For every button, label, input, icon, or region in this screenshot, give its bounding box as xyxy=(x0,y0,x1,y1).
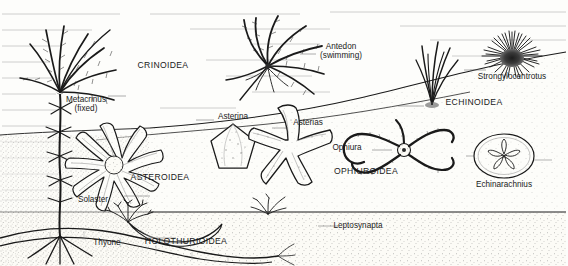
genus-label-antedon: Antedon (swimming) xyxy=(320,42,362,60)
class-label-echinoidea: ECHINOIDEA xyxy=(446,98,503,108)
antedon-org xyxy=(226,16,324,100)
class-label-ophiuroidea: OPHIUROIDEA xyxy=(334,167,398,177)
echinoderm-habitat-diagram: CRINOIDEA ASTEROIDEA OPHIUROIDEA ECHINOI… xyxy=(0,0,568,266)
genus-label-asterina: Asterina xyxy=(218,112,248,121)
class-label-holothurioidea: HOLOTHURIOIDEA xyxy=(145,237,227,247)
class-label-crinoidea: CRINOIDEA xyxy=(138,61,189,71)
class-label-asteroidea: ASTEROIDEA xyxy=(131,173,190,183)
genus-note-metacrinus: (fixed) xyxy=(66,104,106,113)
genus-label-thyone: Thyone xyxy=(93,238,120,247)
genus-label-leptosynapta: Leptosynapta xyxy=(333,221,382,230)
genus-label-solaster: Solaster xyxy=(78,195,108,204)
genus-label-metacrinus: Metacrinus (fixed) xyxy=(66,95,106,113)
genus-name-antedon: Antedon xyxy=(320,42,362,51)
genus-label-echinarachnius: Echinarachnius xyxy=(476,180,532,189)
genus-label-asterias: Asterias xyxy=(293,118,323,127)
genus-name-metacrinus: Metacrinus xyxy=(66,95,106,104)
illustration-artwork xyxy=(0,0,568,266)
genus-note-antedon: (swimming) xyxy=(320,51,362,60)
genus-label-ophiura: Ophiura xyxy=(332,143,361,152)
genus-label-strongylocentrotus: Strongylocentrotus xyxy=(478,72,546,81)
